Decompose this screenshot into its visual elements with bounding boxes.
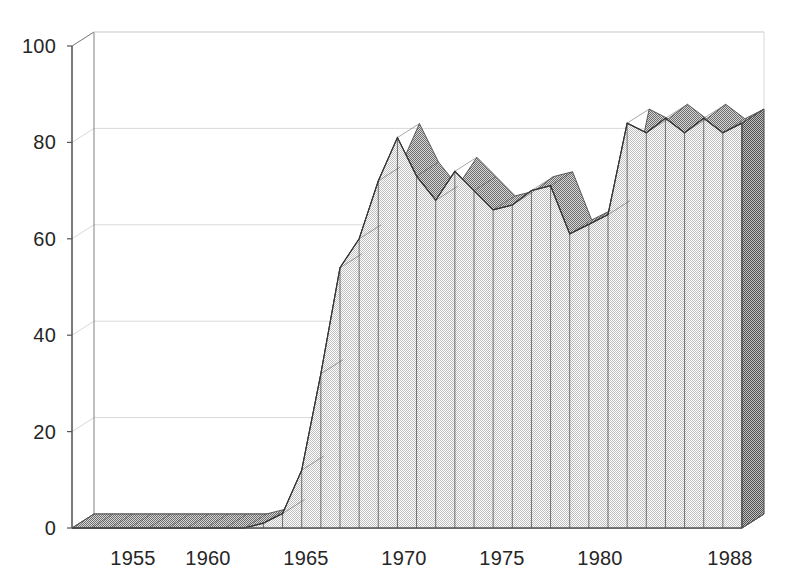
chart-container: 100 80 60 40 20 0 1955 1960 1965 1970 19… <box>0 0 792 582</box>
area-series <box>72 104 764 528</box>
plot-area <box>0 0 792 582</box>
